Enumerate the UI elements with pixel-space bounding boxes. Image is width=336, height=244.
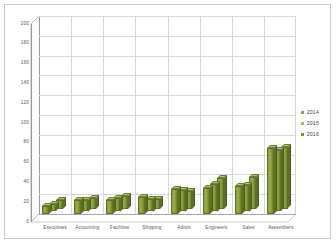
bar[interactable]	[203, 188, 210, 214]
bar-front-face	[203, 188, 210, 214]
y-axis: 020406080100120140160180200	[5, 5, 29, 244]
bar-side-face	[256, 174, 259, 209]
legend-swatch-icon	[301, 122, 304, 125]
x-axis-tick: Accounting	[71, 226, 103, 238]
x-axis-tick: Admin	[168, 226, 200, 238]
bar[interactable]	[171, 189, 178, 214]
legend-item[interactable]: 2014	[301, 107, 335, 118]
bar-side-face	[210, 185, 213, 214]
bar-front-face	[106, 200, 113, 214]
legend: 201420152016	[301, 107, 335, 140]
bar-front-face	[267, 148, 274, 214]
y-axis-tick: 20	[23, 200, 29, 205]
y-axis-tick: 140	[21, 81, 29, 86]
x-axis-tick: Shipping	[136, 226, 168, 238]
bar-front-face	[42, 206, 49, 214]
bar-front-face	[138, 197, 145, 214]
bar[interactable]	[138, 197, 145, 214]
bar-side-face	[249, 181, 252, 211]
bar-side-face	[185, 186, 188, 211]
y-axis-tick: 80	[23, 140, 29, 145]
x-axis-tick: Facilities	[104, 226, 136, 238]
x-axis-tick: Executives	[39, 226, 71, 238]
y-axis-tick: 200	[21, 22, 29, 27]
bar-group	[135, 16, 167, 214]
legend-label: 2016	[307, 132, 319, 137]
bar-side-face	[281, 147, 284, 212]
y-axis-tick: 0	[26, 220, 29, 225]
plot-area: 020406080100120140160180200 ExecutivesAc…	[5, 5, 330, 238]
x-axis-tick: Engineers	[200, 226, 232, 238]
bar-side-face	[274, 144, 277, 214]
y-axis-tick: 160	[21, 61, 29, 66]
y-axis-tick: 40	[23, 180, 29, 185]
x-axis-tick: Assemblers	[265, 226, 297, 238]
bar-side-face	[178, 186, 181, 214]
legend-swatch-icon	[301, 133, 304, 136]
bar-side-face	[288, 144, 291, 209]
bar-side-face	[242, 183, 245, 214]
bar-side-face	[217, 180, 220, 211]
bar-group	[232, 16, 264, 214]
bar-group	[39, 16, 71, 214]
bar[interactable]	[267, 148, 274, 214]
bar-group	[71, 16, 103, 214]
bar-side-face	[192, 188, 195, 209]
bar-group	[168, 16, 200, 214]
x-axis-tick: Sales	[233, 226, 265, 238]
bars-layer	[39, 16, 296, 222]
y-axis-tick: 180	[21, 41, 29, 46]
legend-item[interactable]: 2016	[301, 129, 335, 140]
bar-front-face	[74, 200, 81, 214]
bar-side-face	[224, 175, 227, 209]
legend-item[interactable]: 2015	[301, 118, 335, 129]
y-axis-tick: 60	[23, 160, 29, 165]
bar-group	[200, 16, 232, 214]
bar[interactable]	[74, 200, 81, 214]
legend-label: 2014	[307, 110, 319, 115]
y-axis-tick: 100	[21, 121, 29, 126]
bar[interactable]	[235, 186, 242, 214]
legend-label: 2015	[307, 121, 319, 126]
y-axis-tick: 120	[21, 101, 29, 106]
x-axis: ExecutivesAccountingFacilitiesShippingAd…	[39, 226, 297, 238]
bar[interactable]	[42, 206, 49, 214]
bar-front-face	[171, 189, 178, 214]
bar-group	[103, 16, 135, 214]
bar[interactable]	[106, 200, 113, 214]
chart-frame: 020406080100120140160180200 ExecutivesAc…	[4, 4, 331, 239]
bar-group	[264, 16, 296, 214]
legend-swatch-icon	[301, 111, 304, 114]
bar-front-face	[235, 186, 242, 214]
